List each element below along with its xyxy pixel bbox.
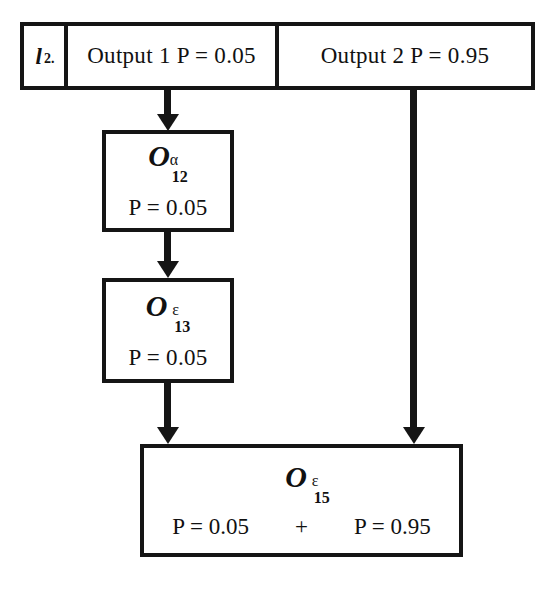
o12-subscript: 12 — [172, 169, 188, 185]
top-bar-index-cell: l2. — [24, 26, 68, 86]
index-subscript: 2. — [44, 51, 55, 67]
node-o15: O ε 15 P = 0.05 + P = 0.95 — [140, 444, 463, 557]
output2-label: Output 2 P = 0.95 — [321, 43, 490, 69]
o15-superscript: ε — [312, 473, 319, 489]
o15-operator-label: O ε 15 — [285, 462, 330, 507]
top-bar-output2-cell: Output 2 P = 0.95 — [279, 26, 531, 86]
o15-probability-left: P = 0.05 — [172, 514, 249, 540]
o15-symbol: O — [285, 462, 307, 492]
output1-label: Output 1 P = 0.05 — [87, 43, 256, 69]
o15-probability-row: P = 0.05 + P = 0.95 — [172, 514, 430, 540]
connector-o13-to-o15 — [164, 383, 171, 429]
o13-subscript: 13 — [174, 319, 190, 335]
connector-o12-to-o13 — [164, 232, 171, 263]
o12-probability: P = 0.05 — [128, 195, 207, 221]
o13-probability: P = 0.05 — [128, 345, 207, 371]
o13-symbol: O — [146, 291, 168, 321]
o12-symbol: O — [148, 141, 170, 171]
o12-superscript: α — [170, 152, 178, 168]
arrowhead-bar-to-o12-icon — [157, 114, 179, 131]
node-o13: O ε 13 P = 0.05 — [102, 278, 234, 383]
o15-plus-sign: + — [295, 514, 308, 540]
top-bar-output1-cell: Output 1 P = 0.05 — [68, 26, 279, 86]
o13-superscript: ε — [172, 302, 179, 318]
node-o12: O α 12 P = 0.05 — [102, 130, 234, 232]
top-bar: l2. Output 1 P = 0.05 Output 2 P = 0.95 — [20, 22, 535, 90]
diagram-canvas: l2. Output 1 P = 0.05 Output 2 P = 0.95 … — [0, 0, 553, 591]
o12-operator-label: O α 12 — [148, 141, 188, 186]
arrowhead-bar-to-o15-icon — [403, 427, 425, 444]
connector-bar-to-o12 — [164, 90, 171, 117]
o15-indices: ε 15 — [312, 473, 330, 506]
o13-operator-label: O ε 13 — [146, 291, 191, 336]
connector-bar-to-o15 — [410, 90, 417, 429]
o13-indices: ε 13 — [172, 302, 190, 335]
o12-indices: α 12 — [170, 152, 188, 185]
arrowhead-o12-to-o13-icon — [157, 261, 179, 278]
o15-subscript: 15 — [314, 490, 330, 506]
arrowhead-o13-to-o15-icon — [157, 427, 179, 444]
o15-probability-right: P = 0.95 — [354, 514, 431, 540]
index-letter: l — [36, 45, 42, 68]
